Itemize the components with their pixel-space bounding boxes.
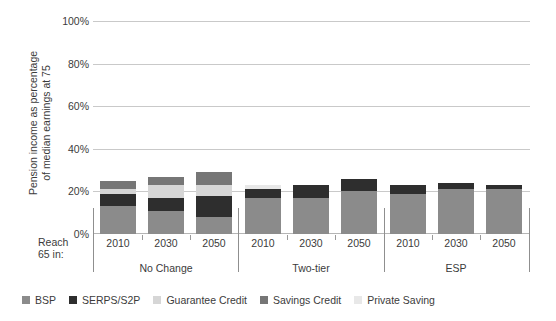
bar-segment-serps-s2p [390, 185, 426, 194]
plot-area [93, 21, 530, 234]
legend-item-bsp[interactable]: BSP [22, 294, 56, 306]
reach-age-label: Reach 65 in: [38, 236, 92, 260]
y-tick-100: 100% [41, 15, 89, 27]
legend-swatch-icon [260, 296, 268, 304]
y-tick-80: 80% [41, 58, 89, 70]
x-label-4: 2030 [285, 237, 337, 249]
bar-segment-savings-credit [196, 172, 232, 185]
bar-segment-savings-credit [100, 181, 136, 190]
chart-legend: BSPSERPS/S2PGuarantee CreditSavings Cred… [22, 292, 542, 308]
scenario-label-two-tier: Two-tier [251, 262, 371, 274]
legend-item-serps-s2p[interactable]: SERPS/S2P [69, 294, 140, 306]
bar-segment-guarantee-credit [148, 185, 184, 198]
bar-segment-bsp [148, 211, 184, 234]
legend-item-private-saving[interactable]: Private Saving [354, 294, 435, 306]
legend-swatch-icon [354, 296, 362, 304]
bar-segment-guarantee-credit [196, 185, 232, 196]
bar-no-change-2050[interactable] [196, 172, 232, 234]
y-tick-60: 60% [41, 100, 89, 112]
x-label-5: 2050 [333, 237, 385, 249]
scenario-label-esp: ESP [396, 262, 516, 274]
legend-label: Savings Credit [273, 294, 341, 306]
legend-swatch-icon [153, 296, 161, 304]
bar-segment-bsp [341, 191, 377, 234]
x-axis-year-labels: 201020302050201020302050201020302050 [93, 235, 530, 257]
legend-label: SERPS/S2P [82, 294, 140, 306]
legend-item-savings-credit[interactable]: Savings Credit [260, 294, 341, 306]
bar-segment-savings-credit [148, 177, 184, 186]
bar-segment-bsp [293, 198, 329, 234]
x-label-7: 2030 [430, 237, 482, 249]
x-label-2: 2050 [188, 237, 240, 249]
bar-segment-bsp [486, 189, 522, 234]
bar-esp-2030[interactable] [438, 183, 474, 234]
bar-series-container [93, 21, 530, 234]
bar-segment-serps-s2p [100, 194, 136, 207]
x-label-3: 2010 [237, 237, 289, 249]
bar-two-tier-2050[interactable] [341, 179, 377, 234]
legend-swatch-icon [22, 296, 30, 304]
bar-no-change-2010[interactable] [100, 181, 136, 234]
x-label-6: 2010 [382, 237, 434, 249]
scenario-label-no-change: No Change [106, 262, 226, 274]
bar-two-tier-2010[interactable] [245, 185, 281, 234]
x-label-8: 2050 [478, 237, 530, 249]
legend-swatch-icon [69, 296, 77, 304]
y-tick-40: 40% [41, 143, 89, 155]
bar-two-tier-2030[interactable] [293, 185, 329, 234]
pension-income-stacked-bar-chart: Pension income as percentage of median e… [0, 0, 556, 321]
x-label-0: 2010 [92, 237, 144, 249]
bar-esp-2050[interactable] [486, 185, 522, 234]
bar-segment-bsp [390, 194, 426, 234]
legend-label: Private Saving [367, 294, 435, 306]
bar-no-change-2030[interactable] [148, 177, 184, 234]
y-axis-tick-labels: 100% 80% 60% 40% 20% 0% [41, 21, 89, 234]
x-axis-scenario-labels: No ChangeTwo-tierESP [93, 258, 530, 280]
bar-segment-serps-s2p [196, 196, 232, 217]
legend-item-guarantee-credit[interactable]: Guarantee Credit [153, 294, 247, 306]
y-tick-20: 20% [41, 185, 89, 197]
bar-esp-2010[interactable] [390, 185, 426, 234]
bar-segment-serps-s2p [341, 179, 377, 192]
x-label-1: 2030 [140, 237, 192, 249]
legend-label: BSP [35, 294, 56, 306]
bar-segment-serps-s2p [148, 198, 184, 211]
bar-segment-bsp [438, 189, 474, 234]
bar-segment-bsp [245, 198, 281, 234]
legend-label: Guarantee Credit [166, 294, 247, 306]
bar-segment-bsp [196, 217, 232, 234]
bar-segment-bsp [100, 206, 136, 234]
bar-segment-serps-s2p [293, 185, 329, 198]
bar-segment-serps-s2p [245, 189, 281, 198]
